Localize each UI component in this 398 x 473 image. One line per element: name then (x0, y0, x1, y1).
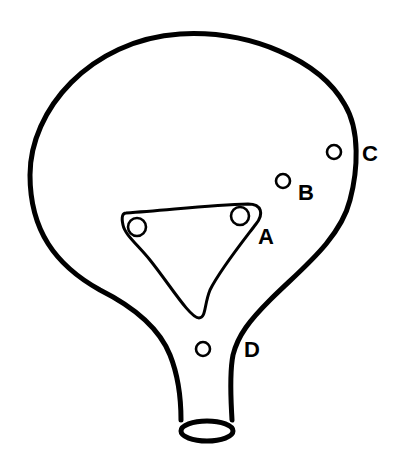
bladder-outline-left (30, 34, 356, 420)
marker-d (196, 342, 210, 356)
urethra-opening (181, 421, 233, 441)
label-a: A (258, 224, 274, 249)
label-c: C (362, 141, 378, 166)
label-d: D (244, 337, 260, 362)
marker-b (276, 174, 290, 188)
label-b: B (298, 180, 314, 205)
marker-c (327, 145, 341, 159)
bladder-diagram: A B C D (0, 0, 398, 473)
ureteric-orifice-right (231, 207, 249, 225)
ureteric-orifice-left (128, 218, 146, 236)
